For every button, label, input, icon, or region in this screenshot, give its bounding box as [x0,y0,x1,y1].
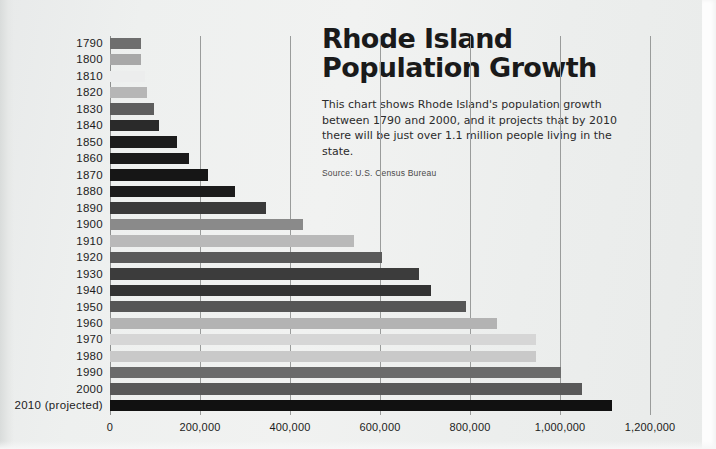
bar-row[interactable]: 1980 [110,349,650,365]
y-axis-label: 1950 [76,299,103,315]
bar-row[interactable]: 1790 [110,36,650,52]
bar-row[interactable]: 1910 [110,234,650,250]
bar[interactable] [110,268,419,279]
bar-row[interactable]: 1800 [110,52,650,68]
y-axis-label: 1890 [76,200,103,216]
bar-row[interactable]: 1880 [110,184,650,200]
bar[interactable] [110,318,497,329]
y-axis-label: 1830 [76,101,103,117]
bar[interactable] [110,202,266,213]
y-axis-label: 1930 [76,266,103,282]
bar-row[interactable]: 2010 (projected) [110,398,650,414]
bar[interactable] [110,301,466,312]
bar[interactable] [110,400,612,411]
y-axis-label: 1810 [76,68,103,84]
bar-chart: 1790180018101820183018401850186018701880… [0,30,716,430]
bar-row[interactable]: 1960 [110,316,650,332]
page-bottom-margin [0,441,716,449]
bar[interactable] [110,351,536,362]
bar-row[interactable]: 1850 [110,135,650,151]
y-axis-label: 1940 [76,282,103,298]
bar[interactable] [110,383,582,394]
y-axis-label: 1840 [76,117,103,133]
bar[interactable] [110,120,159,131]
bar-row[interactable]: 1890 [110,201,650,217]
bar-row[interactable]: 1920 [110,250,650,266]
bar[interactable] [110,87,147,98]
bar[interactable] [110,103,154,114]
x-axis-tick-label: 800,000 [449,421,490,433]
plot-area: 1790180018101820183018401850186018701880… [110,36,650,415]
y-axis-label: 2000 [76,381,103,397]
bar-row[interactable]: 1810 [110,69,650,85]
y-axis-label: 1960 [76,315,103,331]
y-axis-label: 1800 [76,51,103,67]
bar-row[interactable]: 1820 [110,85,650,101]
y-axis-label: 1990 [76,364,103,380]
x-axis-tick-label: 400,000 [269,421,310,433]
x-axis-tick-label: 1,000,000 [535,421,586,433]
bar[interactable] [110,252,382,263]
x-axis-tick-label: 0 [107,421,113,433]
bar-rows: 1790180018101820183018401850186018701880… [110,36,650,415]
bar[interactable] [110,367,561,378]
y-axis-label: 1880 [76,183,103,199]
y-axis-label: 1870 [76,167,103,183]
x-axis-tick-label: 600,000 [359,421,400,433]
bar[interactable] [110,219,303,230]
bar-row[interactable]: 1930 [110,267,650,283]
y-axis-label: 1790 [76,35,103,51]
bar[interactable] [110,71,145,82]
bar-row[interactable]: 2000 [110,382,650,398]
y-axis-label: 1970 [76,331,103,347]
bar-row[interactable]: 1840 [110,118,650,134]
y-axis-label: 1980 [76,348,103,364]
bar[interactable] [110,153,189,164]
bar-row[interactable]: 1830 [110,102,650,118]
y-axis-label: 1910 [76,233,103,249]
bar-row[interactable]: 1860 [110,151,650,167]
y-axis-label: 2010 (projected) [14,397,103,413]
bar[interactable] [110,54,141,65]
y-axis-label: 1860 [76,150,103,166]
y-axis-label: 1850 [76,134,103,150]
bar-row[interactable]: 1900 [110,217,650,233]
bar-row[interactable]: 1990 [110,365,650,381]
bar-row[interactable]: 1940 [110,283,650,299]
y-axis-label: 1900 [76,216,103,232]
bar-row[interactable]: 1950 [110,300,650,316]
y-axis-label: 1920 [76,249,103,265]
bar[interactable] [110,285,431,296]
bar-row[interactable]: 1970 [110,332,650,348]
x-axis-tick-label: 200,000 [179,421,220,433]
bar[interactable] [110,235,354,246]
bar[interactable] [110,169,208,180]
x-axis-tick-label: 1,200,000 [625,421,676,433]
bar[interactable] [110,186,235,197]
bar[interactable] [110,334,536,345]
infographic-page: Rhode Island Population Growth This char… [0,0,716,449]
bar[interactable] [110,38,141,49]
y-axis-label: 1820 [76,84,103,100]
bar[interactable] [110,136,177,147]
gridline-1200000 [650,36,651,415]
bar-row[interactable]: 1870 [110,168,650,184]
x-axis: 0200,000400,000600,000800,0001,000,0001,… [110,421,650,441]
